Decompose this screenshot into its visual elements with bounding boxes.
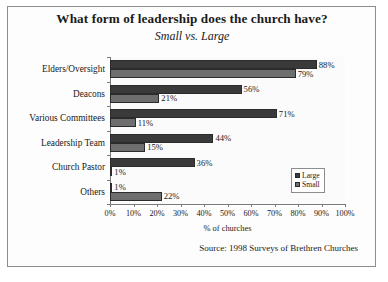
x-tick bbox=[181, 204, 182, 207]
chart-subtitle: Small vs. Large bbox=[14, 29, 370, 44]
bar-row: Various Committees71%11% bbox=[110, 106, 345, 131]
category-label: Deacons bbox=[73, 89, 105, 99]
category-label: Elders/Oversight bbox=[42, 64, 105, 74]
bar-small[interactable]: 21% bbox=[110, 94, 159, 103]
x-tick bbox=[204, 204, 205, 207]
category-label: Leadership Team bbox=[41, 138, 105, 148]
bar-small[interactable]: 79% bbox=[110, 69, 296, 78]
chart-title: What form of leadership does the church … bbox=[14, 11, 370, 27]
bar-value-label: 36% bbox=[197, 158, 213, 168]
chart-legend: Large Small bbox=[291, 168, 325, 193]
chart-figure: What form of leadership does the church … bbox=[0, 0, 388, 282]
x-tick bbox=[298, 204, 299, 207]
legend-item-small[interactable]: Small bbox=[295, 180, 320, 189]
x-tick bbox=[134, 204, 135, 207]
x-tick bbox=[228, 204, 229, 207]
bar-small[interactable]: 15% bbox=[110, 143, 145, 152]
bar-large[interactable]: 1% bbox=[110, 183, 112, 192]
bar-value-label: 44% bbox=[215, 133, 231, 143]
bar-large[interactable]: 88% bbox=[110, 60, 317, 69]
x-tick bbox=[110, 204, 111, 207]
bar-value-label: 1% bbox=[114, 182, 125, 192]
x-tick bbox=[275, 204, 276, 207]
bar-value-label: 1% bbox=[114, 167, 125, 177]
bar-row: Elders/Oversight88%79% bbox=[110, 57, 345, 82]
category-label: Various Committees bbox=[29, 113, 105, 123]
bar-row: Leadership Team44%15% bbox=[110, 131, 345, 156]
x-axis-title: % of churches bbox=[110, 224, 345, 233]
category-label: Church Pastor bbox=[52, 162, 105, 172]
bar-value-label: 11% bbox=[138, 118, 153, 128]
bar-value-label: 88% bbox=[319, 60, 335, 70]
bar-value-label: 15% bbox=[147, 142, 163, 152]
bar-value-label: 21% bbox=[161, 93, 177, 103]
x-tick bbox=[251, 204, 252, 207]
x-tick bbox=[322, 204, 323, 207]
category-label: Others bbox=[80, 187, 105, 197]
bar-value-label: 56% bbox=[244, 84, 260, 94]
legend-swatch-large bbox=[295, 173, 300, 178]
x-tick bbox=[157, 204, 158, 207]
source-note: Source: 1998 Surveys of Brethren Churche… bbox=[0, 243, 358, 253]
x-tick-label: 100% bbox=[330, 209, 360, 218]
x-tick bbox=[345, 204, 346, 207]
bar-row: Deacons56%21% bbox=[110, 82, 345, 107]
bar-small[interactable]: 11% bbox=[110, 118, 136, 127]
bar-small[interactable]: 1% bbox=[110, 167, 112, 176]
bar-value-label: 71% bbox=[279, 109, 295, 119]
y-tick bbox=[107, 204, 110, 205]
legend-label-small: Small bbox=[302, 180, 320, 189]
bar-value-label: 79% bbox=[298, 69, 314, 79]
legend-label-large: Large bbox=[302, 171, 320, 180]
bar-small[interactable]: 22% bbox=[110, 192, 162, 201]
bar-large[interactable]: 71% bbox=[110, 109, 277, 118]
legend-item-large[interactable]: Large bbox=[295, 171, 320, 180]
bar-value-label: 22% bbox=[164, 191, 180, 201]
legend-swatch-small bbox=[295, 182, 300, 187]
